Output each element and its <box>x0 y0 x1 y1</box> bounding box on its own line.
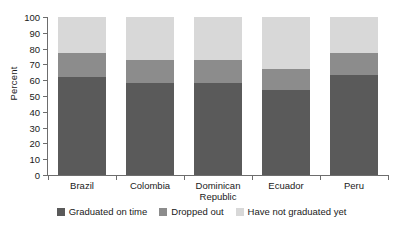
bar-segment <box>330 75 378 175</box>
x-axis-category-label-line: Colombia <box>116 180 184 191</box>
legend-swatch-icon <box>159 208 167 216</box>
y-axis-tick-label: 10 <box>29 154 40 165</box>
y-axis-tick-label: 70 <box>29 59 40 70</box>
y-axis-tick <box>43 33 48 34</box>
y-axis-tick <box>43 80 48 81</box>
y-axis-tick <box>43 49 48 50</box>
y-axis-tick-label: 80 <box>29 43 40 54</box>
y-axis-tick <box>43 159 48 160</box>
y-axis-tick <box>43 17 48 18</box>
bar-segment <box>126 17 174 60</box>
y-axis-tick-label: 100 <box>24 12 40 23</box>
y-axis-tick <box>43 64 48 65</box>
y-axis-tick-label: 50 <box>29 91 40 102</box>
bar-segment <box>262 90 310 175</box>
bar-segment <box>262 69 310 90</box>
x-axis-category-label-line: Brazil <box>48 180 116 191</box>
legend-item[interactable]: Dropped out <box>159 206 223 217</box>
legend-label: Dropped out <box>171 206 223 217</box>
x-axis-category-label: Brazil <box>48 180 116 191</box>
bar-segment <box>126 60 174 84</box>
bar-brazil <box>58 17 106 175</box>
x-axis-category-label: Ecuador <box>252 180 320 191</box>
bar-segment <box>194 60 242 84</box>
y-axis-tick-label: 30 <box>29 122 40 133</box>
legend-item[interactable]: Have not graduated yet <box>236 206 347 217</box>
bar-peru <box>330 17 378 175</box>
chart-legend: Graduated on timeDropped outHave not gra… <box>0 206 403 217</box>
bar-segment <box>194 17 242 60</box>
bar-dominican-republic <box>194 17 242 175</box>
x-axis-category-label-line: Peru <box>320 180 388 191</box>
x-axis-line <box>47 175 389 176</box>
x-axis-category-label-line: Republic <box>184 191 252 202</box>
x-axis-category-label: DominicanRepublic <box>184 180 252 202</box>
bar-segment <box>330 53 378 75</box>
y-axis-tick-label: 40 <box>29 106 40 117</box>
y-axis-tick <box>43 112 48 113</box>
x-axis-category-label: Peru <box>320 180 388 191</box>
legend-item[interactable]: Graduated on time <box>57 206 148 217</box>
x-axis-category-label-line: Dominican <box>184 180 252 191</box>
y-axis-tick <box>43 96 48 97</box>
legend-label: Graduated on time <box>69 206 148 217</box>
bar-segment <box>58 17 106 53</box>
stacked-bar-chart: Percent 0102030405060708090100BrazilColo… <box>0 0 403 229</box>
bar-colombia <box>126 17 174 175</box>
bar-segment <box>126 83 174 175</box>
bar-segment <box>58 77 106 175</box>
y-axis-tick-label: 60 <box>29 75 40 86</box>
x-axis-category-label-line: Ecuador <box>252 180 320 191</box>
legend-swatch-icon <box>236 208 244 216</box>
y-axis-tick <box>43 143 48 144</box>
bar-ecuador <box>262 17 310 175</box>
x-axis-tick <box>388 175 389 180</box>
y-axis-tick-label: 0 <box>35 170 40 181</box>
bar-segment <box>194 83 242 175</box>
y-axis-tick <box>43 128 48 129</box>
bar-segment <box>330 17 378 53</box>
x-axis-category-label: Colombia <box>116 180 184 191</box>
y-axis-tick-label: 20 <box>29 138 40 149</box>
legend-label: Have not graduated yet <box>248 206 347 217</box>
y-axis-title: Percent <box>8 49 19 119</box>
y-axis-tick-label: 90 <box>29 27 40 38</box>
bar-segment <box>262 17 310 69</box>
plot-area: 0102030405060708090100BrazilColombiaDomi… <box>48 17 388 175</box>
legend-swatch-icon <box>57 208 65 216</box>
bar-segment <box>58 53 106 77</box>
